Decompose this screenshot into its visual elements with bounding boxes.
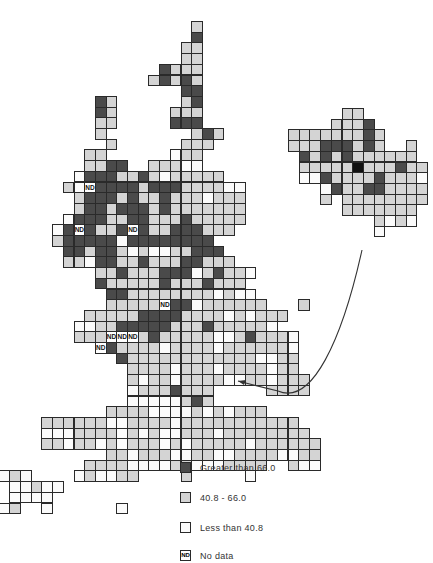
nd-swatch-icon: ND <box>180 550 191 561</box>
white-swatch-icon <box>180 522 191 533</box>
inset-pointer-arrow <box>0 0 433 563</box>
legend-item-low: Less than 40.8 <box>180 522 263 533</box>
grey-swatch-icon <box>180 492 191 503</box>
legend-label: Greater than 66.0 <box>200 463 276 473</box>
dark-swatch-icon <box>180 462 191 473</box>
legend-label: No data <box>200 551 234 561</box>
legend-label: Less than 40.8 <box>200 523 263 533</box>
legend-label: 40.8 - 66.0 <box>200 493 246 503</box>
uk-grid-map: NDNDNDNDNDNDNDND <box>0 0 433 563</box>
legend-item-high: Greater than 66.0 <box>180 462 276 473</box>
legend-item-mid: 40.8 - 66.0 <box>180 492 246 503</box>
legend-item-nodata: ND No data <box>180 550 234 561</box>
